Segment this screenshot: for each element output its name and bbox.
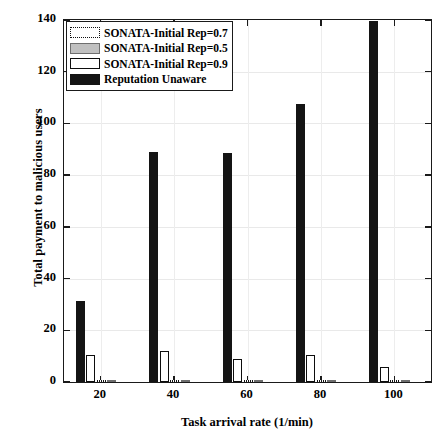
y-axis-tick-right: [425, 71, 431, 72]
legend-item[interactable]: SONATA-Initial Rep=0.9: [70, 56, 228, 72]
bar: [160, 351, 169, 382]
legend-item-label: SONATA-Initial Rep=0.9: [104, 58, 228, 70]
y-tick-label: 120: [16, 63, 56, 78]
y-tick-label: 20: [16, 321, 56, 336]
bar: [170, 380, 179, 382]
x-tick-label: 100: [368, 387, 418, 402]
y-axis-title: Total payment to malicious users: [31, 68, 46, 328]
bar: [390, 380, 399, 382]
figure: Total payment to malicious users Task ar…: [0, 0, 444, 443]
y-tick-label: 60: [16, 218, 56, 233]
y-axis-tick-right: [425, 19, 431, 20]
y-axis-tick-right: [425, 381, 431, 382]
legend-item-label: SONATA-Initial Rep=0.7: [104, 27, 228, 39]
x-tick-label: 80: [295, 387, 345, 402]
x-tick-label: 40: [148, 387, 198, 402]
y-axis-tick: [64, 174, 70, 175]
bar: [233, 359, 242, 382]
y-axis-tick-right: [425, 174, 431, 175]
bar: [380, 367, 389, 383]
legend-item[interactable]: SONATA-Initial Rep=0.7: [70, 25, 228, 41]
y-tick-label: 40: [16, 270, 56, 285]
gridline-vertical: [248, 20, 249, 382]
bar: [223, 153, 232, 382]
bar: [401, 380, 410, 382]
x-axis-tick-top: [320, 20, 321, 26]
y-tick-label: 140: [16, 11, 56, 26]
legend-item[interactable]: Reputation Unaware: [70, 72, 228, 88]
bar: [317, 380, 326, 382]
bar: [306, 355, 315, 382]
y-tick-label: 100: [16, 114, 56, 129]
bar: [254, 380, 263, 382]
y-tick-label: 80: [16, 166, 56, 181]
black-fill-swatch-icon: [70, 74, 100, 85]
bar: [107, 380, 116, 382]
chart-legend: SONATA-Initial Rep=0.7 SONATA-Initial Re…: [66, 21, 233, 91]
y-axis-tick: [64, 381, 70, 382]
x-axis-tick-top: [394, 20, 395, 26]
y-axis-tick-right: [425, 123, 431, 124]
gridline-vertical: [321, 20, 322, 382]
gridline-vertical: [394, 20, 395, 382]
bar: [97, 380, 106, 382]
x-axis-tick-top: [247, 20, 248, 26]
y-axis-tick-right: [425, 330, 431, 331]
y-axis-tick: [64, 330, 70, 331]
bar: [86, 355, 95, 382]
bar: [149, 152, 158, 382]
y-axis-tick-right: [425, 226, 431, 227]
y-axis-tick: [64, 123, 70, 124]
legend-item-label: SONATA-Initial Rep=0.5: [104, 42, 228, 54]
bar: [76, 301, 85, 382]
bar: [327, 380, 336, 382]
dotted-outline-swatch-icon: [70, 27, 100, 38]
y-axis-tick: [64, 278, 70, 279]
y-axis-tick: [64, 226, 70, 227]
gray-fill-swatch-icon: [70, 43, 100, 54]
bar: [369, 21, 378, 382]
legend-item-label: Reputation Unaware: [104, 73, 206, 85]
x-tick-label: 20: [75, 387, 125, 402]
bar: [296, 104, 305, 382]
x-axis-title: Task arrival rate (1/min): [62, 415, 432, 430]
legend-item[interactable]: SONATA-Initial Rep=0.5: [70, 41, 228, 57]
bar: [244, 380, 253, 382]
x-tick-label: 60: [222, 387, 272, 402]
y-axis-tick-right: [425, 278, 431, 279]
bar: [181, 380, 190, 382]
white-outline-swatch-icon: [70, 58, 100, 69]
y-tick-label: 0: [16, 373, 56, 388]
